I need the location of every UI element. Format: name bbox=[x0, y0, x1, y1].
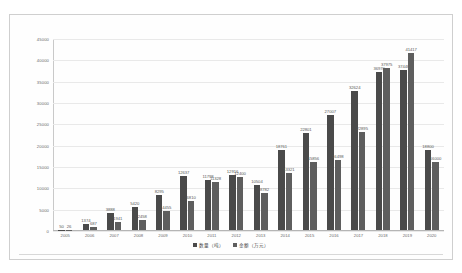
x-axis-tick-label: 2006 bbox=[85, 233, 94, 238]
bar-group: 829544552009 bbox=[151, 38, 175, 230]
bar: 12400 bbox=[237, 177, 244, 230]
bar: 10504 bbox=[254, 185, 261, 230]
bar-value-label: 41417 bbox=[405, 47, 416, 52]
chart-screenshot: 0500010000150002000025000300003500040000… bbox=[0, 0, 462, 273]
bar: 687 bbox=[90, 227, 97, 230]
bar: 8782 bbox=[261, 193, 268, 230]
chart-card: 0500010000150002000025000300003500040000… bbox=[9, 14, 453, 260]
bar-group: 27007164982016 bbox=[322, 38, 346, 230]
x-axis-tick-label: 2018 bbox=[378, 233, 387, 238]
legend-item-series-1: 数量（吨） bbox=[193, 242, 224, 248]
bar-value-label: 11328 bbox=[210, 176, 221, 181]
bar: 36970 bbox=[376, 72, 383, 230]
x-axis-tick-label: 2012 bbox=[232, 233, 241, 238]
bar-group: 37448414172019 bbox=[395, 38, 419, 230]
bar-group: 11798113282011 bbox=[200, 38, 224, 230]
bar: 15856 bbox=[310, 162, 317, 230]
legend-swatch-icon bbox=[233, 243, 237, 247]
x-axis-tick-label: 2014 bbox=[280, 233, 289, 238]
bar-group: 22801158562015 bbox=[297, 38, 321, 230]
x-axis-tick-label: 2017 bbox=[354, 233, 363, 238]
bar-group: 542024582008 bbox=[126, 38, 150, 230]
bar: 41417 bbox=[408, 53, 415, 230]
legend-label: 数量（吨） bbox=[199, 242, 224, 248]
bar: 4455 bbox=[163, 211, 170, 230]
bar-value-label: 2458 bbox=[138, 214, 147, 219]
bar-value-label: 16000 bbox=[430, 156, 441, 161]
bar: 18761 bbox=[278, 150, 285, 230]
bar: 12916 bbox=[229, 175, 236, 230]
bar: 1374 bbox=[83, 224, 90, 230]
bar: 16498 bbox=[335, 160, 342, 230]
legend-label: 金额（万元） bbox=[239, 242, 269, 248]
y-axis-tick-label: 40000 bbox=[37, 58, 49, 63]
bar: 16000 bbox=[432, 162, 439, 230]
gridline bbox=[53, 231, 444, 232]
bar-group: 12916124002012 bbox=[224, 38, 248, 230]
bar: 22801 bbox=[303, 133, 310, 230]
bar-value-label: 687 bbox=[90, 221, 97, 226]
bar-value-label: 50 bbox=[59, 224, 64, 229]
bar-value-label: 5420 bbox=[130, 201, 139, 206]
bar: 11328 bbox=[212, 182, 219, 230]
bar-group: 32624228952017 bbox=[346, 38, 370, 230]
y-axis-tick-label: 25000 bbox=[37, 122, 49, 127]
bar-value-label: 13321 bbox=[283, 167, 294, 172]
bar: 32624 bbox=[351, 91, 358, 230]
bar-value-label: 1941 bbox=[113, 216, 122, 221]
x-axis-tick-label: 2015 bbox=[305, 233, 314, 238]
bar: 27007 bbox=[327, 115, 334, 230]
y-axis-tick-label: 20000 bbox=[37, 143, 49, 148]
bar-value-label: 18800 bbox=[422, 144, 433, 149]
bar-value-label: 8295 bbox=[155, 189, 164, 194]
y-axis-tick-label: 15000 bbox=[37, 165, 49, 170]
bar: 2458 bbox=[139, 220, 146, 230]
bar-value-label: 10504 bbox=[251, 179, 262, 184]
bar-group: 18761133212014 bbox=[273, 38, 297, 230]
x-axis-tick-label: 2007 bbox=[109, 233, 118, 238]
bar-group: 18800160002020 bbox=[420, 38, 444, 230]
bar-value-label: 27007 bbox=[325, 109, 336, 114]
bar: 18800 bbox=[425, 150, 432, 230]
x-axis-tick-label: 2009 bbox=[158, 233, 167, 238]
bar-group: 1050487822013 bbox=[249, 38, 273, 230]
footer-divider bbox=[19, 254, 443, 255]
y-axis-tick-label: 30000 bbox=[37, 101, 49, 106]
bar-value-label: 8782 bbox=[260, 187, 269, 192]
bar-value-label: 18761 bbox=[276, 144, 287, 149]
y-axis-tick-label: 0 bbox=[47, 229, 49, 234]
bar-value-label: 6810 bbox=[187, 195, 196, 200]
bar-group: 388819412007 bbox=[102, 38, 126, 230]
bar: 11798 bbox=[205, 180, 212, 230]
x-axis-tick-label: 2020 bbox=[427, 233, 436, 238]
x-axis-tick-label: 2013 bbox=[256, 233, 265, 238]
y-axis-tick-label: 10000 bbox=[37, 186, 49, 191]
bar: 13321 bbox=[286, 173, 293, 230]
bar-group: 13746872006 bbox=[77, 38, 101, 230]
bar-value-label: 3888 bbox=[106, 207, 115, 212]
bar-value-label: 26 bbox=[67, 224, 72, 229]
y-axis-tick-label: 5000 bbox=[39, 207, 49, 212]
bar-value-label: 22895 bbox=[357, 126, 368, 131]
bar-group: 50262005 bbox=[53, 38, 77, 230]
y-axis-tick-label: 35000 bbox=[37, 79, 49, 84]
y-axis-tick-label: 45000 bbox=[37, 37, 49, 42]
x-axis-tick-label: 2005 bbox=[61, 233, 70, 238]
bar: 1941 bbox=[115, 222, 122, 230]
bar-group: 1263768102010 bbox=[175, 38, 199, 230]
bar: 26 bbox=[66, 230, 73, 231]
chart-legend: 数量（吨） 金额（万元） bbox=[10, 242, 452, 248]
bar-value-label: 15856 bbox=[308, 156, 319, 161]
bar-value-label: 12637 bbox=[178, 170, 189, 175]
bar: 50 bbox=[58, 230, 65, 231]
bar-value-label: 37975 bbox=[381, 62, 392, 67]
bar-value-label: 16498 bbox=[332, 154, 343, 159]
bar: 12637 bbox=[180, 176, 187, 230]
bar: 8295 bbox=[156, 195, 163, 230]
bar: 22895 bbox=[359, 132, 366, 230]
bar-value-label: 12400 bbox=[234, 171, 245, 176]
legend-swatch-icon bbox=[193, 243, 197, 247]
bar: 6810 bbox=[188, 201, 195, 230]
bar: 37448 bbox=[400, 70, 407, 230]
bar-group: 36970379752018 bbox=[371, 38, 395, 230]
